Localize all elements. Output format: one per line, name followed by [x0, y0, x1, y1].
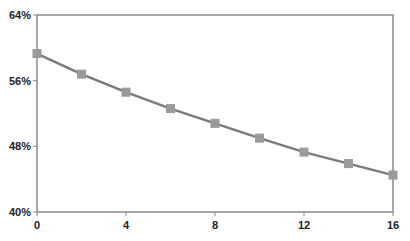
data-point-marker	[78, 70, 86, 78]
plot-frame	[37, 15, 393, 212]
y-axis-ticks: 40%48%56%64%	[9, 9, 37, 218]
data-point-marker	[256, 134, 264, 142]
x-tick-label: 8	[212, 219, 218, 231]
data-point-marker	[211, 119, 219, 127]
series-line	[37, 54, 393, 176]
y-tick-label: 48%	[9, 140, 31, 152]
x-tick-label: 0	[34, 219, 40, 231]
y-tick-label: 64%	[9, 9, 31, 21]
x-tick-label: 12	[298, 219, 310, 231]
x-axis-ticks: 0481216	[34, 212, 399, 231]
line-chart: 40%48%56%64% 0481216	[0, 0, 410, 241]
x-tick-label: 4	[123, 219, 130, 231]
data-point-marker	[122, 88, 130, 96]
data-point-marker	[300, 148, 308, 156]
data-point-marker	[167, 105, 175, 113]
data-point-marker	[389, 171, 397, 179]
y-tick-label: 56%	[9, 75, 31, 87]
data-point-marker	[345, 160, 353, 168]
data-series	[33, 50, 397, 179]
x-tick-label: 16	[387, 219, 399, 231]
data-point-marker	[33, 50, 41, 58]
y-tick-label: 40%	[9, 206, 31, 218]
plot-area-border	[37, 15, 393, 212]
